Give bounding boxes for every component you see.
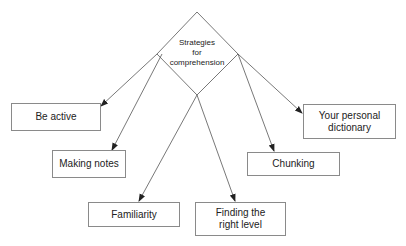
node-label: right level	[219, 219, 262, 231]
node-label: Be active	[35, 111, 76, 123]
node-making-notes: Making notes	[52, 150, 126, 178]
arrow-to-chunking	[238, 54, 274, 151]
center-label: Strategies for comprehension	[157, 38, 237, 68]
node-personal-dictionary: Your personal dictionary	[303, 104, 396, 139]
arrow-to-finding-right-level	[197, 95, 235, 201]
center-label-line: comprehension	[157, 58, 237, 68]
node-label: Your personal	[319, 110, 380, 122]
node-finding-right-level: Finding the right level	[195, 202, 286, 236]
center-label-line: Strategies	[157, 38, 237, 48]
node-label: dictionary	[328, 122, 371, 134]
node-be-active: Be active	[11, 103, 101, 131]
arrow-to-making-notes	[112, 54, 162, 150]
arrow-to-familiarity	[139, 95, 197, 201]
node-label: Finding the	[216, 207, 265, 219]
node-chunking: Chunking	[247, 152, 340, 176]
arrow-to-personal-dictionary	[238, 54, 302, 113]
node-familiarity: Familiarity	[88, 202, 180, 227]
node-label: Chunking	[272, 158, 314, 170]
center-label-line: for	[157, 48, 237, 58]
node-label: Making notes	[59, 158, 118, 170]
node-label: Familiarity	[111, 209, 157, 221]
